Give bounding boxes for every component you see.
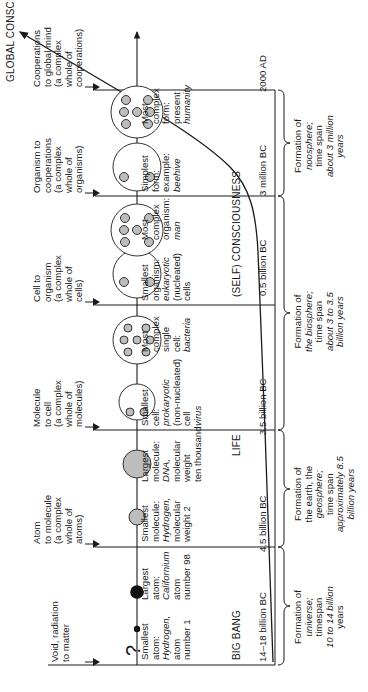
most-complex-cooperation-text: Mostcomplexform:presenthumanity — [140, 85, 193, 124]
transition-arrowheads — [93, 83, 100, 666]
largest-molecule-text: Largestmolecule:DNA,molecularweightten t… — [140, 427, 204, 482]
smallest-molecule-text: Smallestmolecule:Hydrogen,molecularweigh… — [140, 498, 193, 542]
timeline-life-date: 3.5 billion BC — [258, 378, 269, 435]
transition-cooperations-label: Cooperationsto global mind(a complexwhol… — [32, 27, 85, 87]
transition-cell-label: Cell toorganism(a complexwhole ofcells) — [32, 255, 85, 302]
timeline-earth-date: 4.5 billion BC — [258, 495, 269, 552]
era-noosphere: Formation ofnoosphere;time spanabout 3 m… — [293, 115, 346, 177]
timeline-big-bang-date: 14–18 billion BC — [258, 592, 269, 662]
largest-atom-text: Largestatom:Californiumatomnumber 98 — [140, 551, 193, 600]
timeline-humans-date: 3 million BC — [258, 145, 269, 196]
simplest-cooperation-text: Simplestform:example:beehive — [140, 153, 182, 192]
smallest-organism-text: Smallestorganism:eukaryotic(nucleated)ce… — [140, 253, 193, 301]
era-biosphere: Formation ofthe biosphere;time spanabout… — [293, 291, 346, 352]
global-consciousness-title: GLOBAL CONSCIOUSNESS — [6, 0, 17, 82]
life-label: LIFE — [232, 434, 243, 456]
era-braces — [278, 90, 290, 665]
transition-atom-label: Atomto molecule(a complexwhole ofatoms) — [32, 495, 85, 544]
big-bang-label: BIG BANG — [232, 610, 243, 660]
smallest-cell-text: Smallestcell:prokaryotic(non-nucleated)c… — [140, 359, 204, 426]
timeline-complex-life-date: 0.5 billion BC — [258, 239, 269, 296]
era-geosphere: Formation ofthe earth, thegeosphere;time… — [293, 456, 357, 532]
transition-organism-label: Organism tocooperations(a complexwhole o… — [32, 138, 85, 193]
evolution-diagram: GLOBAL CONSCIOUSNESS Void, radiationto m… — [0, 0, 368, 692]
smallest-atom-text: Smallestatom:Hydrogen,atomnumber 1 — [140, 616, 193, 660]
transition-molecule-label: Moleculeto cell(a complexwhole ofmolecul… — [32, 380, 85, 427]
largest-cell-text: Mostcomplexsinglecell:bacteria — [140, 316, 193, 352]
timeline-present-date: 2000 AD — [258, 55, 269, 92]
self-consciousness-label: (SELF) CONSCIOUSNESS — [232, 171, 243, 297]
transition-arrows — [85, 87, 98, 662]
era-universe: Formation ofuniverse;timespan10 to 14 bi… — [293, 586, 346, 648]
largest-organism-text: Mostcomplexorganism:man — [140, 198, 182, 240]
transition-void-label: Void, radiationto matter — [50, 601, 71, 662]
